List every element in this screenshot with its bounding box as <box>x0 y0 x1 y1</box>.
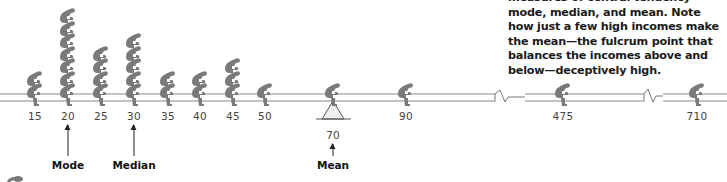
tick-label: 15 <box>28 110 42 122</box>
person-icon <box>394 82 416 110</box>
mode-label: Mode <box>52 159 84 171</box>
tick-label: 40 <box>193 110 207 122</box>
partial-figure-icon <box>6 173 26 182</box>
tick-label: 90 <box>399 110 413 122</box>
person-icon <box>56 7 78 35</box>
person-icon <box>156 70 178 98</box>
median-label: Median <box>112 159 155 171</box>
tick-label: 50 <box>258 110 272 122</box>
person-icon <box>188 70 210 98</box>
person-icon <box>122 32 144 60</box>
mode-arrow-icon <box>68 125 69 156</box>
tick-label: 35 <box>161 110 175 122</box>
person-icon <box>685 82 707 110</box>
person-icon <box>221 57 243 85</box>
mean-label: Mean <box>317 159 349 171</box>
tick-label: 30 <box>127 110 141 122</box>
seesaw-diagram: 152025303540455090475710 70 Mode Median … <box>0 0 727 182</box>
person-icon <box>253 82 275 110</box>
tick-label: 20 <box>61 110 75 122</box>
caption-text: measures of central tendency—mode, media… <box>508 0 727 78</box>
person-icon <box>321 82 343 110</box>
person-icon <box>551 82 573 110</box>
person-icon <box>23 70 45 98</box>
tick-label: 475 <box>553 110 574 122</box>
person-icon <box>89 45 111 73</box>
tick-label: 45 <box>226 110 240 122</box>
tick-label: 25 <box>94 110 108 122</box>
tick-label: 710 <box>687 110 708 122</box>
mean-value-label: 70 <box>326 129 339 141</box>
mean-arrow-icon <box>333 144 334 156</box>
median-arrow-icon <box>134 125 135 156</box>
